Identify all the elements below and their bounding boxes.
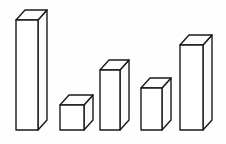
bar-3 (100, 60, 129, 130)
bar-1-front-face (16, 20, 38, 130)
bar-chart-figure: 3D Bar Chart Line Drawing (0, 0, 226, 144)
bar-3-front-face (100, 70, 120, 130)
bar-5 (180, 35, 212, 130)
bar-4-front-face (141, 88, 162, 130)
bar-2-front-face (60, 105, 84, 130)
bar-2 (60, 95, 93, 130)
bar-5-front-face (180, 45, 203, 130)
bar-5-side-face (203, 35, 212, 130)
bar-chart-canvas (0, 0, 226, 144)
bar-4 (141, 78, 171, 130)
bar-1 (16, 10, 47, 130)
bar-3-side-face (120, 60, 129, 130)
bars-group (16, 10, 212, 130)
bar-1-side-face (38, 10, 47, 130)
